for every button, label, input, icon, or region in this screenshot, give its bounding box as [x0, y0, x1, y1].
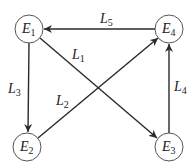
- node-E1: E1: [15, 15, 43, 43]
- label-L1: L1: [71, 47, 85, 64]
- label-L2: L2: [55, 93, 69, 110]
- label-L5: L5: [99, 11, 113, 28]
- label-L3: L3: [7, 81, 21, 98]
- label-L4: L4: [173, 79, 187, 96]
- graph-diagram: E1 E2 E3 E4 L5 L1 L3 L2 L4: [0, 0, 195, 168]
- node-E4: E4: [155, 15, 183, 43]
- node-E2: E2: [13, 133, 41, 161]
- edge-L3: [28, 43, 29, 132]
- node-E3: E3: [155, 133, 183, 161]
